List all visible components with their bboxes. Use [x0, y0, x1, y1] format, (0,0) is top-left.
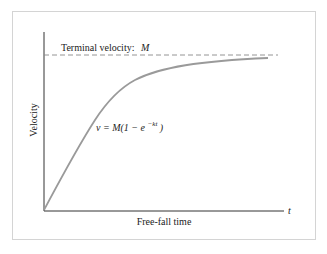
terminal-symbol: M: [140, 42, 150, 53]
x-axis-symbol: t: [288, 205, 291, 216]
velocity-chart: Terminal velocity: M v = M(1 − e −kt ) V…: [0, 0, 327, 254]
svg-text:Terminal velocity: M: Terminal velocity: M: [61, 42, 150, 53]
terminal-label: Terminal velocity:: [61, 42, 134, 53]
y-axis-label: Velocity: [28, 103, 39, 136]
x-axis-label: Free-fall time: [137, 216, 192, 227]
velocity-curve: [44, 58, 268, 210]
equation-exponent: −kt: [148, 120, 159, 128]
equation-main: v = M(1 − e: [96, 122, 146, 134]
equation-label: v = M(1 − e −kt ): [96, 117, 164, 134]
equation-close: ): [159, 122, 164, 134]
